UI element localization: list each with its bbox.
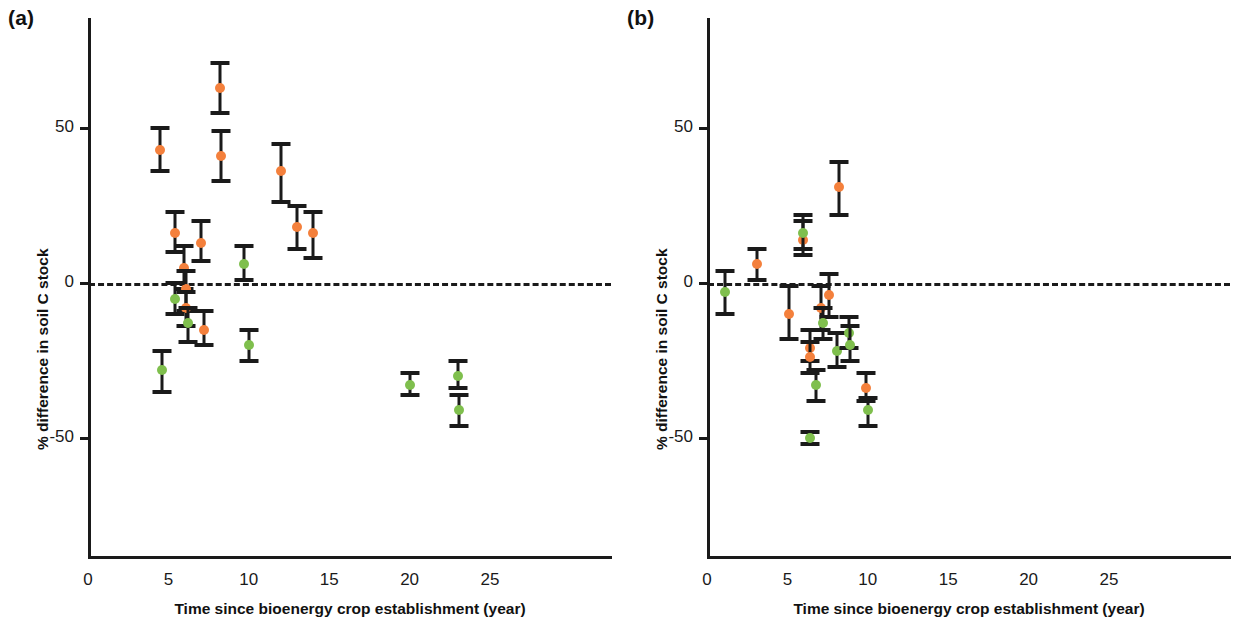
error-bar-cap — [747, 278, 766, 282]
data-point-orange — [276, 166, 286, 176]
error-bar-cap — [794, 213, 813, 217]
panel-a-x-axis-line — [88, 556, 612, 559]
panel-b-plot-area — [619, 0, 1238, 621]
error-bar-cap — [165, 312, 184, 316]
panel-a-y-axis-line — [88, 18, 91, 556]
error-bar-cap — [271, 142, 290, 146]
data-point-orange — [834, 182, 844, 192]
data-point-green — [811, 380, 821, 390]
data-point-orange — [752, 259, 762, 269]
data-point-green — [453, 371, 463, 381]
panel-b-x-tick-label: 15 — [918, 570, 978, 590]
error-bar-cap — [841, 324, 860, 328]
error-bar-cap — [151, 126, 170, 130]
data-point-green — [863, 405, 873, 415]
error-bar-cap — [151, 169, 170, 173]
data-point-green — [845, 340, 855, 350]
error-bar-cap — [448, 386, 467, 390]
error-bar-cap — [178, 340, 197, 344]
panel-a-x-tick-label: 25 — [460, 570, 520, 590]
panel-b-y-axis-line — [707, 18, 710, 556]
panel-a-x-axis-title: Time since bioenergy crop establishment … — [88, 600, 612, 618]
data-point-green — [720, 287, 730, 297]
data-point-orange — [215, 83, 225, 93]
panel-a-plot-area — [0, 0, 619, 621]
error-bar-cap — [829, 213, 848, 217]
error-bar-cap — [829, 160, 848, 164]
data-point-orange — [155, 145, 165, 155]
panel-b-y-tick — [699, 127, 708, 130]
panel-a: (a) 500-500510152025Time since bioenergy… — [0, 0, 619, 621]
error-bar-cap — [165, 281, 184, 285]
error-bar-cap — [839, 315, 858, 319]
panel-b-y-tick — [699, 282, 708, 285]
panel-a-y-tick — [80, 282, 89, 285]
error-bar-cap — [780, 284, 799, 288]
error-bar-cap — [191, 259, 210, 263]
data-point-green — [244, 340, 254, 350]
error-bar-cap — [304, 210, 323, 214]
data-point-green — [805, 433, 815, 443]
error-bar-cap — [304, 256, 323, 260]
error-bar-cap — [177, 290, 196, 294]
panel-b-x-tick-label: 0 — [677, 570, 737, 590]
error-bar-cap — [239, 328, 258, 332]
panel-a-y-tick — [80, 437, 89, 440]
error-bar-cap — [715, 269, 734, 273]
panel-a-y-tick — [80, 127, 89, 130]
panel-b-x-axis-line — [707, 556, 1231, 559]
panel-b-x-tick-label: 20 — [999, 570, 1059, 590]
error-bar-cap — [858, 396, 877, 400]
error-bar-cap — [177, 269, 196, 273]
error-bar-cap — [288, 247, 307, 251]
error-bar-cap — [400, 393, 419, 397]
data-point-orange — [292, 222, 302, 232]
error-bar-cap — [178, 306, 197, 310]
error-bar-cap — [794, 247, 813, 251]
panel-b-y-tick — [699, 437, 708, 440]
error-bar-cap — [400, 371, 419, 375]
panel-a-x-tick-label: 0 — [58, 570, 118, 590]
panel-b-y-tick-label: 50 — [641, 117, 693, 137]
data-point-green — [170, 294, 180, 304]
error-bar-cap — [191, 219, 210, 223]
data-point-green — [183, 318, 193, 328]
error-bar-cap — [212, 179, 231, 183]
panel-a-x-tick-label: 15 — [299, 570, 359, 590]
data-point-orange — [784, 309, 794, 319]
data-point-orange — [170, 228, 180, 238]
panel-b-x-axis-title: Time since bioenergy crop establishment … — [707, 600, 1231, 618]
data-point-green — [818, 318, 828, 328]
data-point-orange — [196, 238, 206, 248]
data-point-green — [798, 228, 808, 238]
error-bar-cap — [715, 312, 734, 316]
error-bar-cap — [820, 272, 839, 276]
error-bar-cap — [212, 129, 231, 133]
panel-a-x-tick-label: 20 — [380, 570, 440, 590]
error-bar-cap — [152, 390, 171, 394]
error-bar-cap — [448, 359, 467, 363]
error-bar-cap — [450, 424, 469, 428]
panel-a-y-axis-title: % difference in soil C stock — [34, 248, 52, 450]
data-point-orange — [805, 352, 815, 362]
error-bar-cap — [234, 244, 253, 248]
error-bar-cap — [794, 253, 813, 257]
error-bar-cap — [450, 393, 469, 397]
error-bar-cap — [857, 371, 876, 375]
panel-b-y-axis-title: % difference in soil C stock — [653, 248, 671, 450]
error-bar-cap — [841, 359, 860, 363]
data-point-green — [454, 405, 464, 415]
error-bar-cap — [165, 250, 184, 254]
error-bar-cap — [747, 247, 766, 251]
error-bar-cap — [807, 368, 826, 372]
error-bar-cap — [210, 61, 229, 65]
data-point-orange — [216, 151, 226, 161]
panel-b-x-tick-label: 10 — [838, 570, 898, 590]
error-bar-cap — [828, 365, 847, 369]
figure-container: (a) 500-500510152025Time since bioenergy… — [0, 0, 1238, 621]
panel-b-x-tick-label: 5 — [757, 570, 817, 590]
panel-b: (b) 500-500510152025Time since bioenergy… — [619, 0, 1238, 621]
error-bar-cap — [780, 337, 799, 341]
data-point-green — [157, 365, 167, 375]
error-bar-cap — [807, 399, 826, 403]
